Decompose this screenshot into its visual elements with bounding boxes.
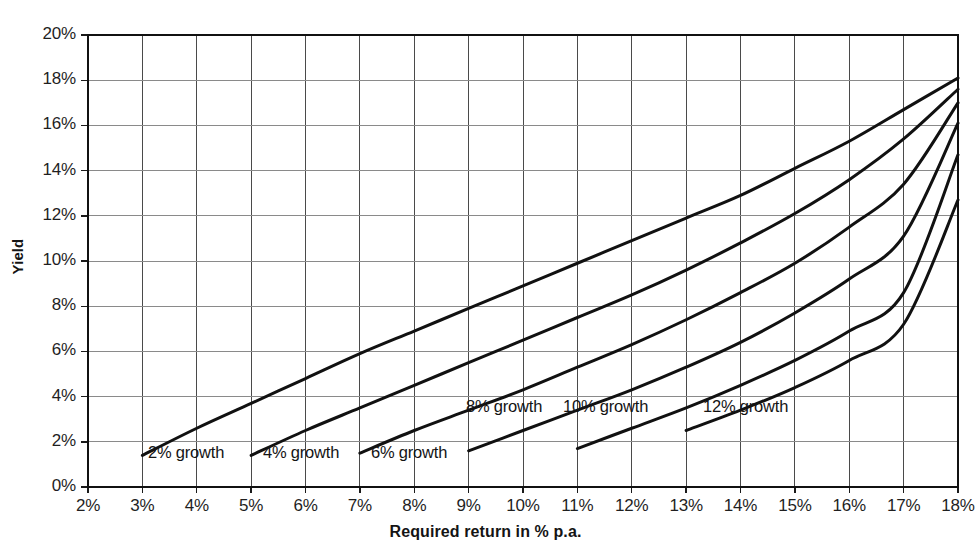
series-label-2: 6% growth	[371, 443, 447, 462]
series-label-1: 4% growth	[263, 443, 339, 462]
x-tick-label: 17%	[877, 496, 931, 516]
series-label-4: 10% growth	[563, 397, 648, 416]
series-label-0: 2% growth	[148, 443, 224, 462]
x-tick-label: 14%	[714, 496, 768, 516]
x-axis-title: Required return in % p.a.	[0, 523, 971, 541]
series-line-0	[142, 78, 958, 455]
x-tick-label: 12%	[605, 496, 659, 516]
x-tick-label: 5%	[224, 496, 278, 516]
data-series-lines	[142, 78, 958, 455]
y-tick-label: 2%	[10, 431, 76, 451]
x-tick-label: 11%	[550, 496, 604, 516]
x-tick-label: 9%	[442, 496, 496, 516]
x-tick-label: 16%	[822, 496, 876, 516]
y-tick-label: 18%	[10, 69, 76, 89]
y-tick-label: 6%	[10, 340, 76, 360]
series-label-3: 8% growth	[466, 397, 542, 416]
y-tick-label: 8%	[10, 295, 76, 315]
y-tick-label: 14%	[10, 160, 76, 180]
x-tick-label: 2%	[61, 496, 115, 516]
series-label-5: 12% growth	[703, 397, 788, 416]
x-tick-label: 15%	[768, 496, 822, 516]
x-tick-label: 3%	[115, 496, 169, 516]
x-tick-label: 10%	[496, 496, 550, 516]
axis-tick-marks	[81, 35, 958, 493]
x-tick-label: 7%	[333, 496, 387, 516]
x-tick-label: 8%	[387, 496, 441, 516]
y-axis-title: Yield	[9, 222, 26, 292]
x-tick-label: 4%	[170, 496, 224, 516]
y-tick-label: 0%	[10, 476, 76, 496]
series-line-2	[360, 103, 958, 453]
x-tick-label: 13%	[659, 496, 713, 516]
x-tick-label: 18%	[931, 496, 979, 516]
x-tick-label: 6%	[279, 496, 333, 516]
y-tick-label: 4%	[10, 386, 76, 406]
y-tick-label: 20%	[10, 24, 76, 44]
y-tick-label: 16%	[10, 114, 76, 134]
series-line-5	[686, 200, 958, 431]
